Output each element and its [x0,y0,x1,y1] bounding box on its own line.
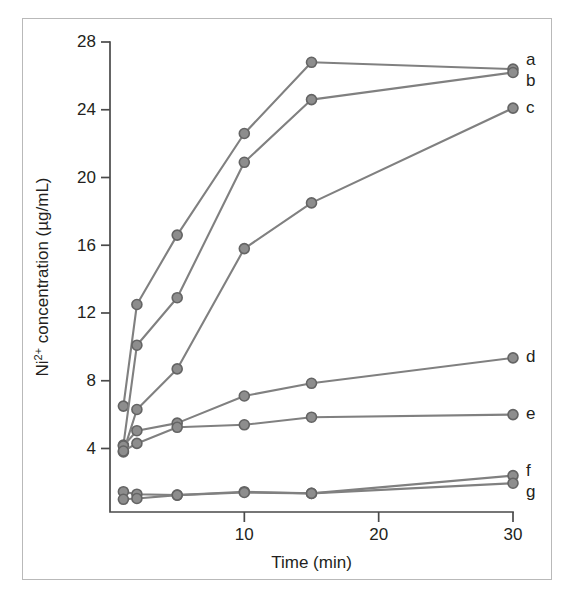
data-point-b [132,340,142,350]
data-point-e [118,446,128,456]
x-tick-label: 20 [369,525,388,544]
data-point-e [132,438,142,448]
series-label-g: g [526,482,535,501]
y-tick-label: 4 [87,439,96,458]
y-tick-label: 8 [87,371,96,390]
y-tick-label: 24 [77,100,96,119]
data-point-c [132,405,142,415]
y-tick-label: 16 [77,236,96,255]
data-point-a [239,129,249,139]
series-label-e: e [526,404,535,423]
series-line-c [123,108,513,452]
series-label-f: f [526,461,531,480]
axis-lines [110,42,513,512]
series-label-d: d [526,347,535,366]
data-point-c [239,244,249,254]
y-tick-label: 28 [77,32,96,51]
series-label-c: c [526,98,535,117]
data-point-g [307,488,317,498]
series-line-b [123,73,513,446]
data-point-g [239,488,249,498]
data-point-c [307,198,317,208]
data-point-c [508,103,518,113]
series-label-b: b [526,71,535,90]
x-tick-label: 10 [235,525,254,544]
data-point-d [132,426,142,436]
data-point-a [307,57,317,67]
data-point-b [508,68,518,78]
y-tick-label: 12 [77,303,96,322]
data-point-b [307,95,317,105]
figure-root: 481216202428102030Time (min)Ni2+ concent… [0,0,574,599]
data-point-c [172,364,182,374]
data-point-a [172,230,182,240]
data-point-a [132,300,142,310]
data-point-d [307,378,317,388]
data-point-g [172,490,182,500]
data-point-d [508,353,518,363]
y-tick-label: 20 [77,168,96,187]
data-point-b [172,293,182,303]
data-point-e [508,410,518,420]
series-label-a: a [526,50,536,69]
y-axis-title: Ni2+ concentration (µg/mL) [32,177,52,376]
data-point-e [307,412,317,422]
line-chart: 481216202428102030Time (min)Ni2+ concent… [0,0,574,599]
data-point-b [239,157,249,167]
data-point-d [239,391,249,401]
data-point-g [508,478,518,488]
data-point-a [118,401,128,411]
data-point-g [132,494,142,504]
data-point-e [239,420,249,430]
x-axis-title: Time (min) [271,553,352,572]
data-point-g [118,494,128,504]
x-tick-label: 30 [504,525,523,544]
data-point-e [172,422,182,432]
